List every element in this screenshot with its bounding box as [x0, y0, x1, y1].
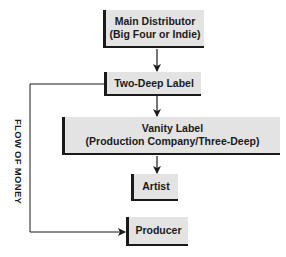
- node-producer-title: Producer: [135, 224, 181, 237]
- arrow-twodeep-to-producer: [30, 84, 125, 232]
- node-two-deep-label-title: Two-Deep Label: [114, 77, 194, 90]
- node-artist-title: Artist: [142, 180, 169, 193]
- node-main-distributor-subtitle: (Big Four or Indie): [110, 28, 201, 41]
- node-two-deep-label: Two-Deep Label: [104, 72, 201, 96]
- node-vanity-label-title: Vanity Label: [142, 122, 203, 135]
- node-vanity-label: Vanity Label (Production Company/Three-D…: [62, 117, 280, 155]
- node-main-distributor: Main Distributor (Big Four or Indie): [103, 10, 204, 48]
- node-main-distributor-title: Main Distributor: [115, 15, 196, 28]
- node-artist: Artist: [131, 174, 178, 201]
- flow-of-money-label: FLOW OF MONEY: [10, 112, 26, 212]
- node-producer: Producer: [126, 217, 188, 246]
- node-vanity-label-subtitle: (Production Company/Three-Deep): [86, 135, 260, 148]
